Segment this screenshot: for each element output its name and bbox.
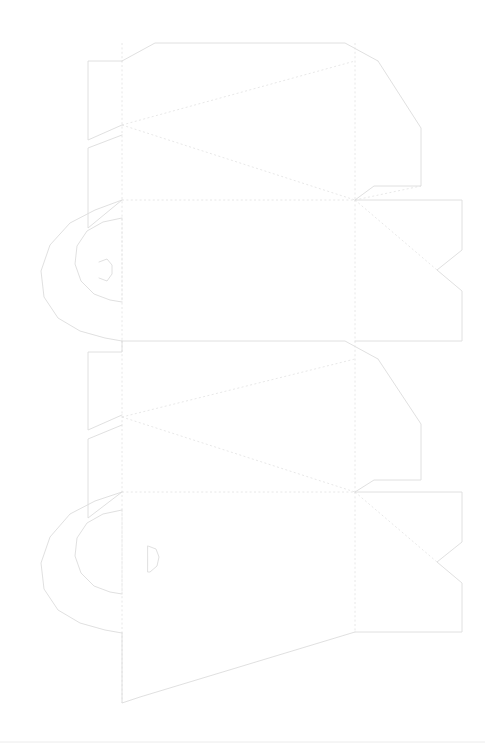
- canvas-background: [0, 0, 485, 756]
- dieline-drawing: [0, 0, 485, 756]
